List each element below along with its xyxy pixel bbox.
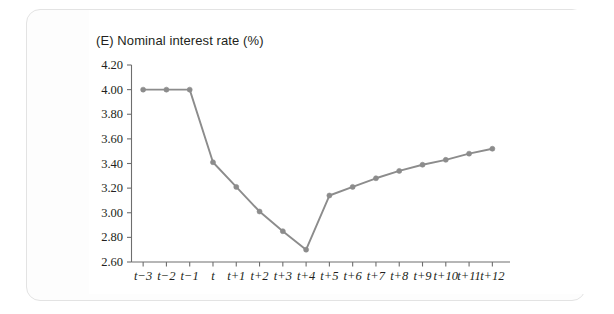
data-point-marker	[350, 184, 355, 189]
y-axis-tick-label: 4.20	[83, 58, 123, 73]
y-axis-tick-label: 3.40	[83, 156, 123, 171]
x-axis-tick-label: t+5	[320, 269, 338, 284]
data-point-marker	[420, 162, 425, 167]
x-axis-tick-label: t+3	[274, 269, 292, 284]
x-axis-tick-label: t+11	[457, 269, 480, 284]
x-axis-tick-label: t−1	[181, 269, 199, 284]
data-point-marker	[373, 176, 378, 181]
data-point-marker	[257, 209, 262, 214]
data-point-marker	[327, 193, 332, 198]
data-point-marker	[304, 247, 309, 252]
y-axis-tick-label: 3.20	[83, 181, 123, 196]
data-point-marker	[141, 87, 146, 92]
x-axis-tick-label: t+12	[480, 269, 504, 284]
data-point-marker	[397, 168, 402, 173]
x-axis-tick-label: t+9	[413, 269, 431, 284]
x-axis-tick-label: t+2	[250, 269, 268, 284]
data-point-marker	[234, 184, 239, 189]
screenshot-root: (E) Nominal interest rate (%) 2.602.803.…	[0, 0, 614, 314]
x-axis-tick-label: t−2	[157, 269, 175, 284]
x-axis-tick-label: t+1	[227, 269, 245, 284]
data-point-marker	[164, 87, 169, 92]
x-axis-tick-label: t+4	[297, 269, 315, 284]
y-axis-tick-label: 3.80	[83, 107, 123, 122]
series-line-nominal-interest-rate	[143, 90, 492, 250]
y-axis-tick-label: 2.60	[83, 255, 123, 270]
line-chart: 2.602.803.003.203.403.603.804.004.20 t−3…	[0, 0, 614, 314]
x-axis-tick-label: t−3	[134, 269, 152, 284]
data-point-marker	[490, 146, 495, 151]
y-axis-tick-label: 3.60	[83, 131, 123, 146]
data-point-marker	[467, 151, 472, 156]
x-axis-tick-label: t+6	[344, 269, 362, 284]
y-axis-tick-label: 4.00	[83, 82, 123, 97]
y-axis-tick-label: 3.00	[83, 205, 123, 220]
y-axis-tick-label: 2.80	[83, 230, 123, 245]
data-point-marker	[210, 160, 215, 165]
data-point-marker	[280, 229, 285, 234]
x-axis-tick-label: t+8	[390, 269, 408, 284]
data-point-marker	[187, 87, 192, 92]
x-axis-tick-label: t	[211, 269, 214, 284]
x-axis-tick-label: t+10	[434, 269, 458, 284]
data-point-marker	[443, 157, 448, 162]
x-axis-tick-label: t+7	[367, 269, 385, 284]
